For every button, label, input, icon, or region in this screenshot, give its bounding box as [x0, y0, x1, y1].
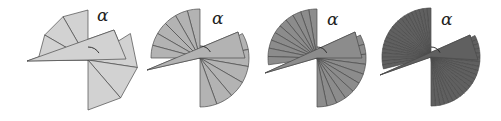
alpha-label: α: [327, 9, 339, 29]
figure-2: α: [147, 8, 249, 107]
figure-3: α: [265, 9, 366, 107]
figure-4: α: [380, 8, 480, 106]
sector-rearrangement-diagram: α α α α: [0, 0, 501, 121]
alpha-label: α: [212, 8, 224, 28]
alpha-label: α: [97, 5, 109, 25]
figure-1: α: [27, 5, 137, 110]
alpha-label: α: [441, 9, 453, 29]
